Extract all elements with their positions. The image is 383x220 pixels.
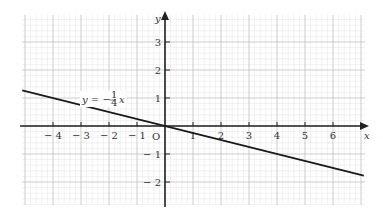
- x-tick-label: 4: [274, 130, 280, 141]
- origin-label: O: [152, 131, 160, 142]
- line-graph: − 4− 3− 2− 1123456− 2− 1123 x y O y = − …: [0, 0, 383, 220]
- equation-frac-den: 4: [111, 97, 117, 108]
- y-tick-label: 1: [155, 93, 161, 104]
- y-tick-label: 2: [155, 65, 161, 76]
- x-tick-label: − 4: [44, 130, 62, 141]
- y-tick-label: 3: [155, 37, 161, 48]
- x-tick-label: − 2: [100, 130, 118, 141]
- y-tick-label: − 2: [143, 177, 161, 188]
- x-tick-label: − 3: [72, 130, 90, 141]
- x-tick-label: 6: [330, 130, 336, 141]
- x-tick-label: 5: [302, 130, 308, 141]
- y-tick-label: − 1: [143, 149, 161, 160]
- x-tick-label: − 1: [128, 130, 146, 141]
- equation-rhs: x: [119, 94, 125, 105]
- x-tick-label: 3: [246, 130, 252, 141]
- equation-lhs: y = −: [81, 94, 111, 105]
- grid: [22, 15, 365, 205]
- y-axis-label: y: [154, 13, 161, 24]
- x-axis-label: x: [364, 130, 370, 141]
- equation-label: y = − 1 4 x: [80, 89, 126, 108]
